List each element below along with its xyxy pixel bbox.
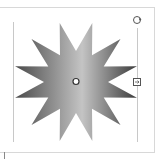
drawing-canvas[interactable] [0,0,160,159]
rotate-handle[interactable] [134,17,142,24]
resize-handle[interactable] [134,79,141,86]
center-handle[interactable] [73,79,79,85]
shape-layer [0,0,160,159]
